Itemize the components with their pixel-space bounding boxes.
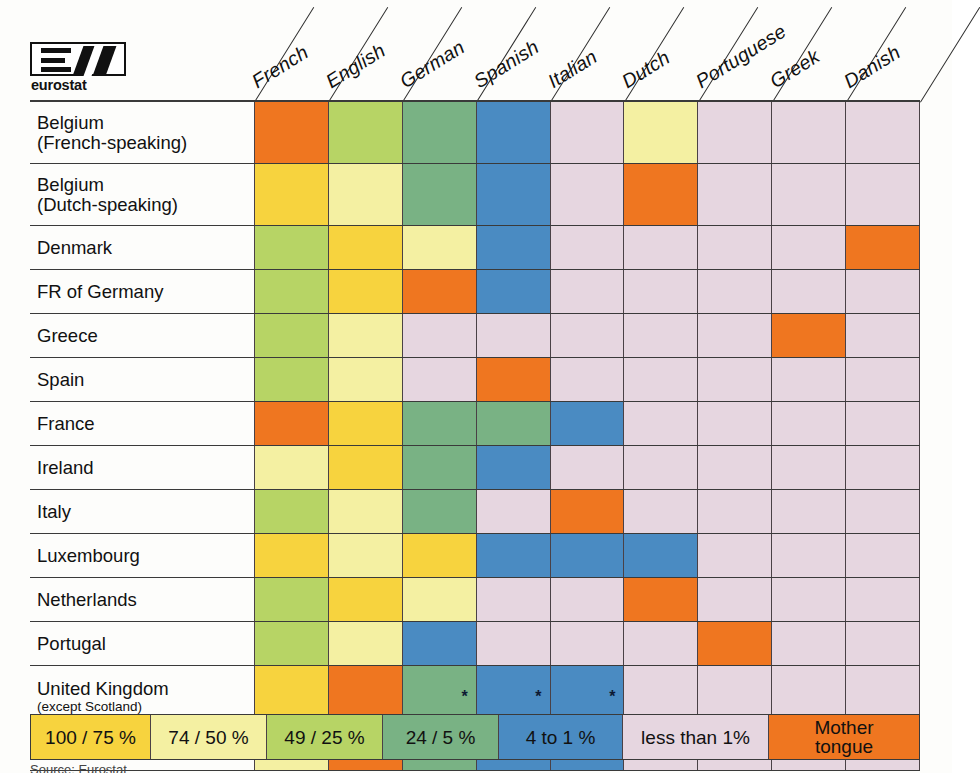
- matrix-cell: [254, 402, 328, 445]
- matrix-cell: [550, 402, 624, 445]
- row-label-greece: Greece: [30, 314, 254, 357]
- matrix-cell: [476, 402, 550, 445]
- matrix-cell: [697, 578, 771, 621]
- column-header-rule: [920, 7, 980, 103]
- matrix-cell: [328, 446, 402, 489]
- matrix-cell: [845, 102, 920, 163]
- matrix-cell: [328, 102, 402, 163]
- matrix-row-cells: [254, 402, 920, 445]
- legend-label: 49 / 25 %: [284, 728, 364, 747]
- matrix-cell: [328, 490, 402, 533]
- legend-label: 74 / 50 %: [168, 728, 248, 747]
- matrix-cell: [845, 270, 920, 313]
- matrix-row: Belgium(French-speaking): [30, 101, 920, 163]
- matrix-row: Spain: [30, 357, 920, 401]
- matrix-cell: [550, 622, 624, 665]
- matrix-row-cells: [254, 102, 920, 163]
- row-label-italy: Italy: [30, 490, 254, 533]
- row-label-line1: Spain: [37, 370, 254, 390]
- column-header-danish: Danish: [840, 41, 905, 93]
- matrix-cell: [550, 102, 624, 163]
- row-label-belgium: Belgium(French-speaking): [30, 102, 254, 163]
- matrix-row: Luxembourg: [30, 533, 920, 577]
- matrix-cell: [697, 358, 771, 401]
- matrix-row: France: [30, 401, 920, 445]
- matrix-row-cells: [254, 622, 920, 665]
- matrix-row: Italy: [30, 489, 920, 533]
- row-label-line1: France: [37, 414, 254, 434]
- matrix-cell: [771, 534, 845, 577]
- row-label-line1: FR of Germany: [37, 282, 254, 302]
- matrix-cell: [771, 622, 845, 665]
- column-header-rule: [698, 7, 758, 103]
- matrix-cell: [328, 578, 402, 621]
- matrix-cell: [550, 446, 624, 489]
- cell-asterisk-marker: *: [535, 689, 541, 705]
- matrix-cell: [623, 314, 697, 357]
- column-header-dutch: Dutch: [618, 46, 674, 93]
- matrix-row-cells: [254, 314, 920, 357]
- matrix-row: Greece: [30, 313, 920, 357]
- matrix-cell: [328, 358, 402, 401]
- legend-item-7: Mothertongue: [769, 715, 919, 759]
- matrix-row: Belgium(Dutch-speaking): [30, 163, 920, 225]
- matrix-cell: [328, 534, 402, 577]
- row-label-line1: Belgium: [37, 175, 254, 195]
- matrix-cell: [845, 578, 920, 621]
- matrix-cell: [845, 164, 920, 225]
- matrix-cell: [402, 490, 476, 533]
- matrix-cell: [476, 270, 550, 313]
- row-label-line1: Belgium: [37, 113, 254, 133]
- matrix-cell: [402, 314, 476, 357]
- matrix-cell: [623, 622, 697, 665]
- matrix-cell: [771, 164, 845, 225]
- legend: 100 / 75 %74 / 50 %49 / 25 %24 / 5 %4 to…: [30, 714, 920, 760]
- row-label-spain: Spain: [30, 358, 254, 401]
- matrix-cell: [550, 358, 624, 401]
- matrix-cell: [771, 402, 845, 445]
- matrix-cell: [476, 358, 550, 401]
- matrix-cell: [402, 446, 476, 489]
- matrix-cell: [402, 270, 476, 313]
- legend-item-2: 74 / 50 %: [151, 715, 267, 759]
- matrix-cell: [328, 164, 402, 225]
- row-label-line2: (Dutch-speaking): [37, 195, 254, 215]
- matrix-cell: [845, 402, 920, 445]
- column-header-french: French: [248, 41, 313, 93]
- matrix-cell: [254, 534, 328, 577]
- matrix-cell: [402, 578, 476, 621]
- matrix-cell: [771, 314, 845, 357]
- matrix-cell: [697, 270, 771, 313]
- matrix-cell: [845, 622, 920, 665]
- row-label-line1: Denmark: [37, 238, 254, 258]
- matrix-cell: [254, 226, 328, 269]
- legend-label: 24 / 5 %: [406, 728, 476, 747]
- matrix-cell: [476, 314, 550, 357]
- matrix-cell: [254, 314, 328, 357]
- legend-item-4: 24 / 5 %: [383, 715, 499, 759]
- matrix-cell: [623, 102, 697, 163]
- eurostat-wordmark: eurostat: [31, 77, 148, 93]
- matrix-cell: [402, 102, 476, 163]
- eurostat-logo-mark-icon: [30, 42, 126, 76]
- column-header-rule: [624, 7, 684, 103]
- matrix-cell: [550, 534, 624, 577]
- legend-label: less than 1%: [641, 728, 750, 747]
- matrix-cell: [254, 102, 328, 163]
- legend-label-line2: tongue: [814, 737, 873, 756]
- matrix-cell: [550, 164, 624, 225]
- row-label-line1: Netherlands: [37, 590, 254, 610]
- matrix-cell: [476, 622, 550, 665]
- column-header-rule: [772, 7, 832, 103]
- cell-asterisk-marker: *: [461, 689, 467, 705]
- matrix-cell: [771, 226, 845, 269]
- matrix-row: Netherlands: [30, 577, 920, 621]
- matrix-cell: [328, 314, 402, 357]
- matrix-cell: [476, 578, 550, 621]
- matrix-cell: [623, 402, 697, 445]
- row-label-luxembourg: Luxembourg: [30, 534, 254, 577]
- matrix-cell: [845, 358, 920, 401]
- legend-item-5: 4 to 1 %: [499, 715, 623, 759]
- matrix-cell: [476, 226, 550, 269]
